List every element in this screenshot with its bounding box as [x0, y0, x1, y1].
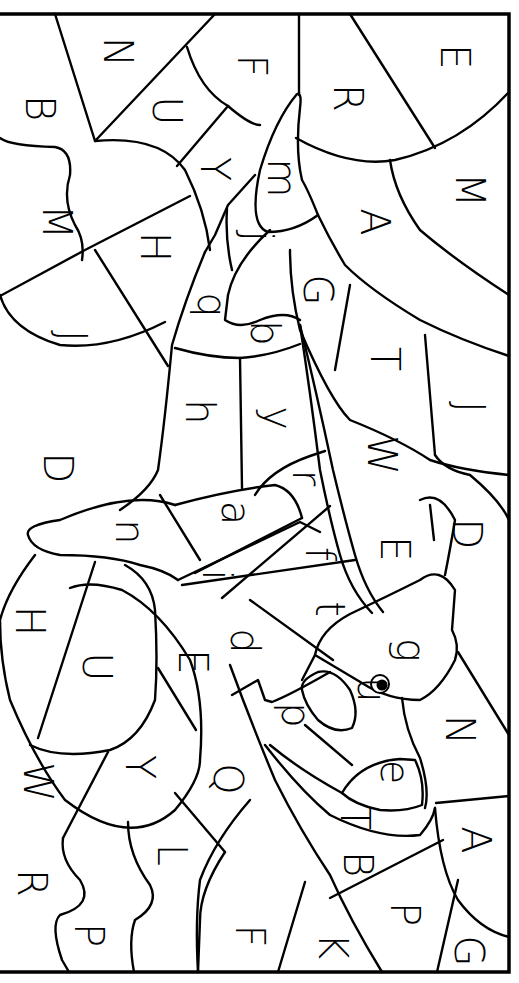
region-label-f1[interactable]: F — [222, 36, 282, 96]
region-label-e3[interactable]: E — [163, 632, 223, 692]
region-label-f1[interactable]: f — [290, 524, 350, 584]
region-label-r1[interactable]: R — [318, 68, 378, 128]
h-y-divider — [240, 358, 242, 488]
region-label-e2[interactable]: E — [365, 519, 425, 579]
region-label-p1[interactable]: p — [266, 685, 326, 745]
region-label-h1[interactable]: H — [125, 217, 185, 277]
region-label-h1[interactable]: h — [170, 382, 230, 442]
region-label-h2[interactable]: H — [0, 591, 60, 651]
region-label-r1[interactable]: r — [277, 448, 337, 508]
region-label-n2[interactable]: N — [430, 700, 490, 760]
region-label-f2[interactable]: F — [220, 906, 280, 966]
region-label-m2[interactable]: M — [440, 160, 500, 220]
region-label-j2[interactable]: J — [440, 377, 500, 437]
coloring-sheet: NBUFREYMHmjAMqGJbhyTJWDrnaDfEiHtdUEgupWY… — [0, 0, 519, 983]
region-label-e1[interactable]: E — [425, 27, 485, 87]
region-label-r2[interactable]: R — [2, 853, 62, 913]
t-j-divider — [425, 335, 435, 455]
region-label-a1[interactable]: A — [345, 192, 405, 252]
f-bottom-edge — [228, 106, 260, 125]
region-label-g2[interactable]: G — [439, 921, 499, 981]
region-label-n1[interactable]: n — [100, 502, 160, 562]
region-label-y1[interactable]: y — [248, 388, 308, 448]
region-label-b1[interactable]: B — [10, 78, 70, 138]
region-label-m1[interactable]: M — [27, 192, 87, 252]
region-label-y2[interactable]: Y — [110, 737, 170, 797]
region-label-t1[interactable]: T — [355, 329, 415, 389]
region-label-t1[interactable]: t — [300, 579, 360, 639]
region-label-q1[interactable]: q — [182, 275, 242, 335]
region-label-l1[interactable]: L — [142, 825, 202, 885]
region-label-a1[interactable]: a — [206, 483, 266, 543]
region-label-u1[interactable]: u — [342, 660, 402, 720]
region-label-d2[interactable]: D — [437, 504, 497, 564]
region-label-w2[interactable]: W — [8, 752, 68, 812]
region-label-n1[interactable]: N — [88, 22, 148, 82]
region-label-u1[interactable]: U — [137, 81, 197, 141]
region-label-a2[interactable]: A — [446, 810, 506, 870]
n2-a2-divider — [436, 796, 509, 803]
cheek-link — [270, 745, 342, 793]
e-d-divider — [430, 505, 434, 540]
region-label-j1[interactable]: j — [228, 206, 288, 266]
w-y-divider — [63, 752, 108, 838]
region-label-b1[interactable]: b — [235, 303, 295, 363]
region-label-q1[interactable]: Q — [198, 749, 258, 809]
region-label-p1[interactable]: P — [59, 905, 119, 965]
region-label-u2[interactable]: U — [67, 637, 127, 697]
region-label-d1[interactable]: D — [28, 438, 88, 498]
region-label-k1[interactable]: K — [303, 916, 363, 976]
region-label-g1[interactable]: G — [288, 260, 348, 320]
region-label-i1[interactable]: i — [187, 545, 247, 605]
region-label-p2[interactable]: P — [375, 884, 435, 944]
region-label-y1[interactable]: Y — [185, 139, 245, 199]
region-label-j1[interactable]: J — [42, 306, 102, 366]
region-label-d1[interactable]: d — [215, 611, 275, 671]
region-label-w1[interactable]: W — [352, 425, 412, 485]
region-label-m1[interactable]: m — [252, 148, 312, 208]
f-k-divider — [278, 882, 305, 972]
